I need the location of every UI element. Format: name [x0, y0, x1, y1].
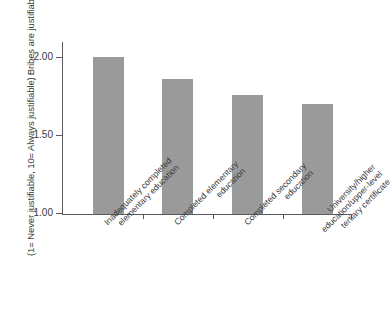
y-tick-label-1.50: 1.50: [34, 128, 53, 141]
bar-inadequately-completed-elementary-education: [93, 57, 124, 214]
x-tick-2: [213, 214, 214, 219]
y-tick-label-1.00: 1.00: [34, 206, 53, 219]
y-axis-line: [62, 42, 63, 214]
y-tick-1.00: 1.00: [56, 213, 62, 214]
bar-completed-secondary-education: [232, 95, 263, 214]
bar-completed-elementary-education: [162, 79, 193, 214]
y-axis-title-line-1: Bribes are justifiable: [25, 0, 37, 75]
x-tick-1: [143, 214, 144, 219]
y-tick-2.00: 2.00: [56, 57, 62, 58]
x-tick-3: [283, 214, 284, 219]
bar-university-higher-education: [302, 104, 333, 214]
y-tick-label-2.00: 2.00: [34, 50, 53, 63]
y-axis-title-line-2: (1= Never justifiable, 10= Always justif…: [25, 77, 37, 256]
plot-area: 1.00 1.50 2.00 Inadequately completed el…: [62, 42, 352, 214]
y-tick-1.50: 1.50: [56, 135, 62, 136]
